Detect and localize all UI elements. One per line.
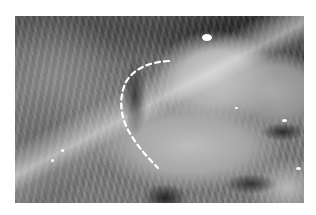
specular-highlight [235,107,238,109]
specular-highlight [202,34,212,41]
dark-crevices [15,16,304,203]
specular-highlight [51,159,54,162]
specular-highlight [282,119,287,122]
specular-highlight [61,149,64,152]
laparoscopic-photo [15,16,304,203]
specular-highlight [296,167,301,170]
